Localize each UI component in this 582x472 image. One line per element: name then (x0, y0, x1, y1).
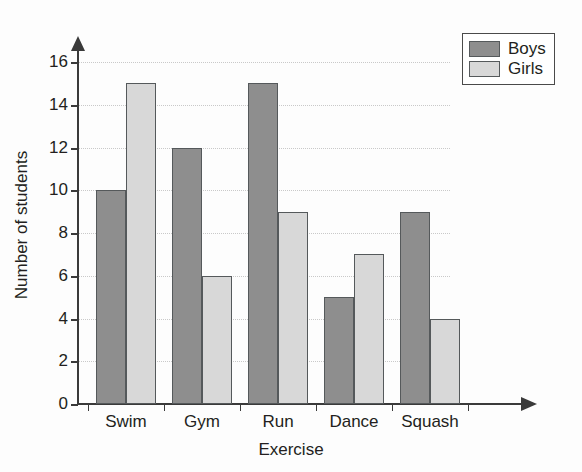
bar-swim-girls (126, 83, 156, 404)
x-axis-title: Exercise (0, 440, 582, 460)
bar-run-boys (248, 83, 278, 404)
bars (78, 62, 450, 404)
arrow-right-icon (521, 397, 537, 411)
y-axis-tick-label: 10 (32, 181, 68, 198)
girls-swatch-icon (469, 61, 500, 77)
bar-run-girls (278, 212, 308, 404)
arrow-up-icon (71, 36, 85, 51)
bar-dance-boys (324, 297, 354, 404)
bar-squash-girls (430, 319, 460, 405)
bar-gym-girls (202, 276, 232, 404)
y-axis-tick-label: 16 (32, 53, 68, 70)
legend: Boys Girls (462, 33, 555, 85)
bar-gym-boys (172, 148, 202, 405)
y-axis-tick-label: 0 (32, 395, 68, 412)
legend-item-girls: Girls (469, 59, 546, 79)
boys-swatch-icon (469, 41, 500, 57)
x-axis-tick-mark (240, 404, 241, 411)
y-axis-tick-label: 12 (32, 139, 68, 156)
legend-item-boys: Boys (469, 39, 546, 59)
y-axis-tick-label: 4 (32, 310, 68, 327)
x-axis-tick-mark (316, 404, 317, 411)
legend-label-girls: Girls (508, 60, 543, 78)
x-axis-tick-mark (164, 404, 165, 411)
bar-swim-boys (96, 190, 126, 404)
bar-dance-girls (354, 254, 384, 404)
x-axis-tick-mark (88, 404, 89, 411)
bar-chart: 0246810121416 SwimGymRunDanceSquash Numb… (0, 0, 582, 472)
x-axis-tick-mark (392, 404, 393, 411)
y-axis-title: Number of students (12, 120, 32, 330)
x-axis-label-squash: Squash (380, 412, 480, 432)
y-axis-tick-label: 8 (32, 224, 68, 241)
bar-squash-boys (400, 212, 430, 404)
y-axis-tick-label: 2 (32, 352, 68, 369)
legend-label-boys: Boys (508, 40, 546, 58)
y-axis-tick-label: 6 (32, 267, 68, 284)
x-axis-tick-mark (468, 404, 469, 411)
y-axis-tick-label: 14 (32, 96, 68, 113)
